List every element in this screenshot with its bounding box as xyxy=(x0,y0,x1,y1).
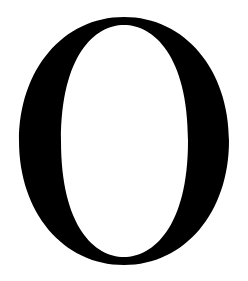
letter-o-glyph: O xyxy=(0,0,248,281)
letter-o-shape xyxy=(0,0,248,281)
